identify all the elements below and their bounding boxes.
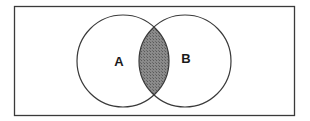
venn-diagram: A B xyxy=(0,0,310,121)
set-a-label: A xyxy=(114,54,124,69)
set-b-label: B xyxy=(181,51,190,66)
